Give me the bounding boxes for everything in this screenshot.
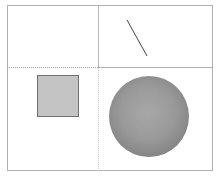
vertical-divider-top [98, 5, 99, 67]
square-shape [37, 75, 79, 117]
circle-shape [109, 76, 189, 157]
horizontal-divider-right [98, 67, 213, 68]
horizontal-divider-left [7, 67, 98, 68]
panel-top-left [8, 6, 98, 67]
vertical-divider-bottom [98, 67, 99, 171]
